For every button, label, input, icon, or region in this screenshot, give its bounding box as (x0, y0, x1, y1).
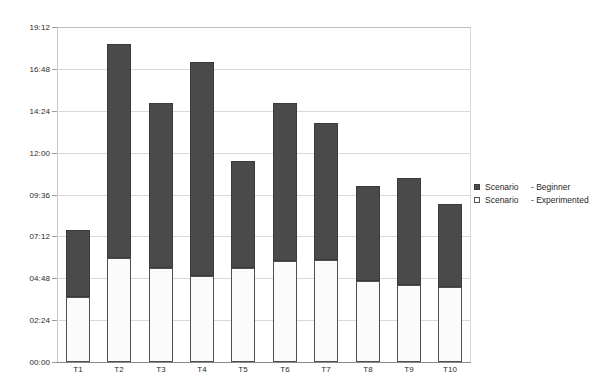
bar-segment-experimented[interactable] (149, 268, 173, 362)
dark-square-icon (474, 184, 480, 190)
bar-segment-experimented[interactable] (66, 297, 90, 362)
light-square-icon (474, 197, 480, 203)
bar-segment-beginner[interactable] (66, 230, 90, 297)
bar-group[interactable] (66, 27, 90, 362)
bar-segment-experimented[interactable] (190, 276, 214, 362)
bar-segment-experimented[interactable] (273, 261, 297, 362)
bar-segment-experimented[interactable] (438, 287, 462, 362)
legend-item-name: Scenario (485, 182, 531, 192)
bar-group[interactable] (397, 27, 421, 362)
legend-item-variant: - Beginner (531, 182, 570, 192)
x-axis-tick-label: T4 (182, 365, 222, 374)
x-axis-tick-label: T6 (265, 365, 305, 374)
legend-item-name: Scenario (485, 195, 531, 205)
bar-segment-experimented[interactable] (231, 268, 255, 362)
x-axis-tick-label: T7 (306, 365, 346, 374)
bar-segment-experimented[interactable] (397, 285, 421, 362)
bar-segment-beginner[interactable] (273, 103, 297, 261)
x-axis: T1T2T3T4T5T6T7T8T9T10 (57, 365, 471, 381)
x-axis-tick-label: T5 (223, 365, 263, 374)
x-axis-tick-label: T2 (99, 365, 139, 374)
gridline (57, 362, 471, 363)
bar-group[interactable] (438, 27, 462, 362)
bar-group[interactable] (149, 27, 173, 362)
bar-segment-beginner[interactable] (107, 44, 131, 258)
chart-legend: Scenario- BeginnerScenario- Experimented (474, 181, 606, 207)
bar-segment-beginner[interactable] (314, 123, 338, 260)
bar-group[interactable] (231, 27, 255, 362)
x-axis-tick-label: T9 (389, 365, 429, 374)
bar-group[interactable] (107, 27, 131, 362)
x-axis-tick-label: T8 (348, 365, 388, 374)
x-axis-tick-label: T3 (141, 365, 181, 374)
bar-group[interactable] (190, 27, 214, 362)
stacked-bar-chart: 00:0002:2404:4807:1209:3612:0014:2416:48… (0, 0, 611, 389)
bar-segment-beginner[interactable] (438, 204, 462, 287)
bar-segment-beginner[interactable] (356, 186, 380, 281)
legend-item-variant: - Experimented (531, 195, 589, 205)
bar-segment-beginner[interactable] (231, 161, 255, 268)
x-axis-tick-label: T1 (58, 365, 98, 374)
bar-group[interactable] (273, 27, 297, 362)
legend-item[interactable]: Scenario- Experimented (474, 194, 606, 205)
bar-segment-beginner[interactable] (190, 62, 214, 276)
bar-segment-experimented[interactable] (356, 281, 380, 362)
bar-segment-experimented[interactable] (107, 258, 131, 362)
bar-group[interactable] (314, 27, 338, 362)
bar-group[interactable] (356, 27, 380, 362)
legend-item[interactable]: Scenario- Beginner (474, 181, 606, 192)
x-axis-tick-label: T10 (430, 365, 470, 374)
plot-area (57, 27, 471, 362)
bar-segment-experimented[interactable] (314, 260, 338, 362)
bar-segment-beginner[interactable] (397, 178, 421, 285)
bar-segment-beginner[interactable] (149, 103, 173, 268)
y-axis-tick-marks (0, 27, 60, 362)
